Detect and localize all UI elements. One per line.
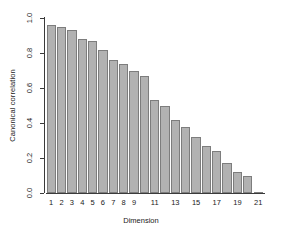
x-axis-tick-label: 11 — [151, 198, 159, 207]
bar — [67, 30, 76, 193]
bar — [202, 146, 211, 193]
bar — [119, 64, 128, 194]
x-axis-tick-label: 15 — [192, 198, 200, 207]
x-axis-tick-label: 5 — [90, 198, 94, 207]
bar — [109, 60, 118, 193]
x-axis-tick-label: 7 — [111, 198, 115, 207]
x-axis-tick-label: 4 — [80, 198, 84, 207]
bar — [171, 120, 180, 194]
bar — [181, 127, 190, 194]
x-axis-tick-label: 17 — [213, 198, 221, 207]
x-axis-line — [46, 193, 265, 194]
x-axis-tick-label: 19 — [233, 198, 241, 207]
bar — [191, 137, 200, 193]
canonical-correlation-bar-chart: Canonical correlation 0.00.20.40.60.81.0… — [0, 0, 282, 238]
bar — [243, 176, 252, 194]
bar — [57, 27, 66, 193]
bar — [88, 41, 97, 193]
x-axis-tick-label: 13 — [171, 198, 179, 207]
bar — [78, 39, 87, 193]
x-axis-title: Dimension — [0, 216, 282, 225]
x-axis-tick-label: 21 — [254, 198, 262, 207]
x-axis-tick-label: 2 — [59, 198, 63, 207]
bar — [222, 163, 231, 193]
x-axis-tick-label: 8 — [122, 198, 126, 207]
bar — [98, 50, 107, 194]
x-axis-tick-label: 9 — [132, 198, 136, 207]
x-axis-tick-label: 1 — [49, 198, 53, 207]
x-axis-tick-label: 3 — [70, 198, 74, 207]
bar — [150, 100, 159, 193]
bar — [160, 106, 169, 194]
bar — [47, 25, 56, 193]
bar — [233, 172, 242, 193]
bar — [140, 76, 149, 193]
bar — [212, 151, 221, 193]
bar — [129, 71, 138, 194]
x-axis-tick-label: 6 — [101, 198, 105, 207]
